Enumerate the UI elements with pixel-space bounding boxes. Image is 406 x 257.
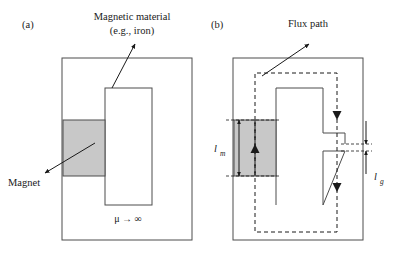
panel-a: (a) Magnetic material (e.g., iron) Magne… [8, 11, 192, 240]
core-tooth-rect-a [105, 88, 152, 205]
lg-subscript: g [380, 177, 384, 186]
permeability-note-a: μ → ∞ [114, 213, 142, 224]
magnetic-material-leader-arrow [112, 44, 135, 88]
flux-path-leader-arrow [262, 44, 309, 76]
flux-arrow-right-upper [333, 111, 342, 120]
panel-b: (b) Flux path l m [211, 18, 384, 240]
magnet-label: Magnet [8, 177, 40, 188]
panel-b-label: (b) [211, 19, 224, 31]
flux-arrow-right-lower [333, 183, 342, 192]
flux-path-label: Flux path [288, 18, 329, 29]
diagram-canvas: (a) Magnetic material (e.g., iron) Magne… [0, 0, 406, 257]
lg-symbol: l [374, 171, 377, 182]
core-tooth-shape-b [276, 88, 345, 205]
magnetic-material-label-line2: (e.g., iron) [110, 25, 155, 37]
magnet-block-a [63, 120, 105, 176]
figure-root: (a) Magnetic material (e.g., iron) Magne… [0, 0, 406, 257]
lm-subscript: m [220, 149, 226, 158]
magnetic-material-label-line1: Magnetic material [94, 11, 171, 22]
panel-a-label: (a) [22, 19, 34, 31]
lm-symbol: l [214, 143, 217, 154]
